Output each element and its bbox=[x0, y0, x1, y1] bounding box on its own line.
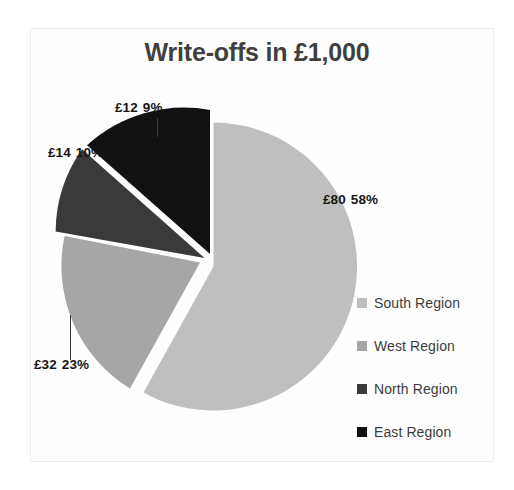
legend-swatch-icon-east bbox=[357, 427, 367, 437]
legend-swatch-icon-south bbox=[357, 298, 367, 308]
slice-label-north-percent: 10% bbox=[76, 145, 103, 160]
chart-legend: South Region West Region North Region Ea… bbox=[357, 292, 460, 464]
chart-page: Write-offs in £1,000 £129% £1410% £3223%… bbox=[0, 0, 514, 490]
slice-label-south: £8058% bbox=[323, 192, 378, 207]
legend-item-east-region[interactable]: East Region bbox=[357, 421, 460, 443]
legend-swatch-icon-north bbox=[357, 384, 367, 394]
slice-label-north: £1410% bbox=[48, 145, 103, 160]
slice-label-west-percent: 23% bbox=[62, 357, 89, 372]
slice-label-north-amount: £14 bbox=[48, 145, 71, 160]
leader-line-west bbox=[70, 315, 71, 360]
slice-label-south-percent: 58% bbox=[351, 192, 378, 207]
leader-line-east bbox=[157, 118, 158, 137]
slice-label-west: £3223% bbox=[34, 357, 89, 372]
legend-swatch-icon-west bbox=[357, 341, 367, 351]
chart-title: Write-offs in £1,000 bbox=[0, 38, 514, 67]
legend-label-east-region: East Region bbox=[374, 424, 451, 440]
legend-label-south-region: South Region bbox=[374, 295, 460, 311]
slice-label-east: £129% bbox=[115, 100, 163, 115]
legend-item-south-region[interactable]: South Region bbox=[357, 292, 460, 314]
slice-label-south-amount: £80 bbox=[323, 192, 346, 207]
legend-item-west-region[interactable]: West Region bbox=[357, 335, 460, 357]
legend-label-west-region: West Region bbox=[374, 338, 455, 354]
legend-label-north-region: North Region bbox=[374, 381, 458, 397]
slice-label-east-percent: 9% bbox=[143, 100, 163, 115]
slice-label-east-amount: £12 bbox=[115, 100, 138, 115]
slice-label-west-amount: £32 bbox=[34, 357, 57, 372]
pie-chart bbox=[40, 95, 370, 420]
legend-item-north-region[interactable]: North Region bbox=[357, 378, 460, 400]
